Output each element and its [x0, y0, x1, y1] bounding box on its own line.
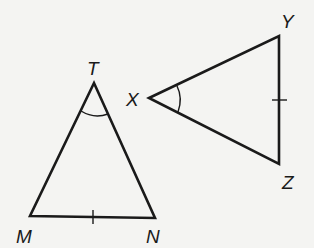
triangle-xyz-outline [149, 36, 279, 164]
vertex-label-z: Z [281, 172, 295, 193]
angle-arc-t [81, 111, 108, 116]
congruence-diagram: T M N X Y Z [0, 0, 314, 248]
angle-arc-x [177, 86, 180, 112]
vertex-label-y: Y [281, 11, 295, 32]
vertex-label-n: N [146, 226, 160, 247]
vertex-label-x: X [125, 89, 140, 110]
triangle-tmn: T M N [16, 58, 160, 247]
vertex-label-m: M [16, 226, 32, 247]
vertex-label-t: T [87, 58, 100, 79]
triangle-xyz: X Y Z [125, 11, 295, 193]
